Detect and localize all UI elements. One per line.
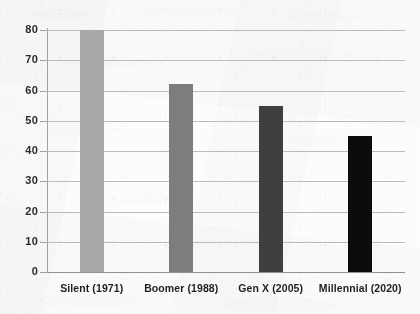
y-axis-tick-label: 30	[0, 174, 38, 186]
x-axis-label-3: Gen X (2005)	[226, 282, 316, 294]
y-axis-tick-label: 0	[0, 265, 38, 277]
x-axis-label-1: Silent (1971)	[47, 282, 137, 294]
y-axis-tick-label: 50	[0, 114, 38, 126]
y-axis-tick-label: 80	[0, 23, 38, 35]
x-axis-label-2: Boomer (1988)	[137, 282, 227, 294]
y-tick-mark-30	[40, 181, 47, 182]
bar-3[interactable]	[259, 106, 283, 272]
x-axis-label-4: Millennial (2020)	[316, 282, 406, 294]
bar-4[interactable]	[348, 136, 372, 272]
plot-area	[47, 30, 405, 272]
y-tick-mark-80	[40, 30, 47, 31]
y-tick-mark-70	[40, 60, 47, 61]
y-axis-tick-label: 60	[0, 84, 38, 96]
y-axis-tick-label: 20	[0, 205, 38, 217]
y-tick-mark-60	[40, 91, 47, 92]
bar-1[interactable]	[80, 30, 104, 272]
y-tick-mark-50	[40, 121, 47, 122]
bar-chart: 01020304050607080 Silent (1971)Boomer (1…	[0, 0, 420, 314]
y-axis-tick-label: 10	[0, 235, 38, 247]
y-tick-mark-0	[40, 272, 47, 273]
chart-page: 01020304050607080 Silent (1971)Boomer (1…	[0, 0, 420, 314]
y-axis-tick-label: 40	[0, 144, 38, 156]
y-axis-tick-label: 70	[0, 53, 38, 65]
y-tick-mark-20	[40, 212, 47, 213]
y-tick-mark-40	[40, 151, 47, 152]
gridline-0	[47, 272, 405, 273]
bar-2[interactable]	[169, 84, 193, 272]
y-tick-mark-10	[40, 242, 47, 243]
